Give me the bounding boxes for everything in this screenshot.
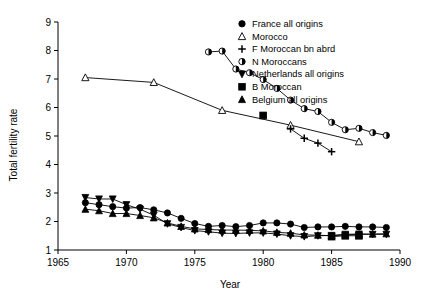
legend-item[interactable]: Belgium all origins — [239, 95, 328, 105]
marker-filled-circle — [370, 224, 376, 230]
x-tick-label: 1975 — [184, 257, 207, 268]
x-tick-label: 1980 — [252, 257, 275, 268]
legend-label: Netherlands all origins — [252, 69, 344, 79]
legend-label: B Moroccan — [252, 82, 302, 92]
legend-item[interactable]: Netherlands all origins — [239, 69, 345, 79]
marker-filled-circle — [239, 21, 245, 27]
marker-filled-circle — [287, 221, 293, 227]
y-axis-tick-labels: 123456789 — [45, 17, 51, 256]
y-tick-label: 2 — [45, 216, 51, 227]
marker-filled-triangle-up — [239, 96, 246, 103]
marker-open-triangle-up — [82, 74, 89, 81]
marker-plus — [314, 139, 321, 146]
legend-item[interactable]: N Moroccans — [239, 57, 307, 67]
marker-filled-circle — [356, 224, 362, 230]
marker-filled-square — [260, 112, 267, 119]
marker-filled-circle — [274, 220, 280, 226]
legend-label: Morocco — [252, 32, 288, 42]
marker-plus — [238, 45, 246, 53]
y-tick-label: 1 — [45, 245, 51, 256]
chart-root: 123456789 196519701975198019851990 Franc… — [0, 0, 434, 293]
legend-label: N Moroccans — [252, 57, 307, 67]
y-tick-label: 9 — [45, 17, 51, 28]
marker-filled-circle — [301, 224, 307, 230]
marker-filled-circle — [329, 224, 335, 230]
x-tick-label: 1970 — [115, 257, 138, 268]
y-tick-label: 5 — [45, 131, 51, 142]
marker-filled-square — [239, 84, 246, 91]
legend-item[interactable]: F Moroccan bn abrd — [238, 44, 335, 54]
marker-open-triangle-up — [219, 107, 226, 114]
marker-filled-triangle-down — [239, 71, 246, 78]
marker-filled-circle — [315, 224, 321, 230]
marker-half-filled-circle — [370, 129, 376, 135]
x-tick-label: 1965 — [47, 257, 70, 268]
x-tick-label: 1985 — [320, 257, 343, 268]
marker-half-filled-circle — [239, 58, 245, 64]
legend-label: Belgium all origins — [252, 95, 328, 105]
marker-filled-circle — [110, 204, 116, 210]
marker-filled-circle — [260, 220, 266, 226]
y-axis-title: Total fertility rate — [8, 108, 19, 181]
x-axis-tick-labels: 196519701975198019851990 — [47, 257, 412, 268]
marker-half-filled-circle — [301, 106, 307, 112]
y-tick-label: 4 — [45, 159, 51, 170]
y-tick-label: 7 — [45, 74, 51, 85]
marker-half-filled-circle — [383, 132, 389, 138]
legend-item[interactable]: France all origins — [239, 19, 323, 29]
marker-half-filled-circle — [219, 48, 225, 54]
marker-filled-circle — [164, 210, 170, 216]
y-tick-label: 3 — [45, 188, 51, 199]
legend-label: F Moroccan bn abrd — [252, 44, 335, 54]
marker-half-filled-circle — [356, 125, 362, 131]
x-tick-label: 1990 — [389, 257, 412, 268]
marker-half-filled-circle — [342, 127, 348, 133]
y-tick-label: 6 — [45, 102, 51, 113]
marker-half-filled-circle — [233, 66, 239, 72]
marker-half-filled-circle — [315, 108, 321, 114]
legend-item[interactable]: Morocco — [238, 32, 287, 42]
marker-half-filled-circle — [205, 49, 211, 55]
chart-legend: France all originsMoroccoF Moroccan bn a… — [238, 19, 344, 105]
marker-plus — [328, 148, 335, 155]
legend-label: France all origins — [252, 19, 323, 29]
marker-open-triangle-up — [238, 33, 245, 40]
legend-item[interactable]: B Moroccan — [239, 82, 302, 92]
fertility-rate-line-chart: 123456789 196519701975198019851990 Franc… — [0, 0, 434, 293]
marker-half-filled-circle — [329, 119, 335, 125]
marker-filled-circle — [178, 215, 184, 221]
y-tick-label: 8 — [45, 45, 51, 56]
marker-plus — [301, 135, 308, 142]
marker-filled-circle — [342, 223, 348, 229]
x-axis-title: Year — [220, 279, 241, 290]
